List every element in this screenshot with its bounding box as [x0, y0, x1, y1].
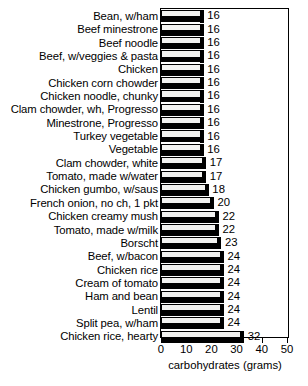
- bar-end-cap: [220, 317, 224, 329]
- x-axis-title: carbohydrates (grams): [160, 359, 290, 371]
- bar-end-cap: [205, 184, 209, 196]
- bar: [161, 117, 201, 130]
- bar-end-cap: [215, 224, 219, 236]
- category-label: Turkey vegetable: [73, 130, 158, 143]
- bar-end-cap: [200, 117, 204, 129]
- bar-value-label: 22: [222, 223, 235, 236]
- bar-row: Cream of tomato24: [0, 277, 308, 290]
- bar: [161, 304, 221, 317]
- x-tick-label: 40: [250, 343, 274, 355]
- bar-row: Clam chowder, white17: [0, 157, 308, 170]
- bar: [161, 331, 242, 344]
- x-tick-label: 30: [225, 343, 249, 355]
- bar: [161, 264, 221, 277]
- bar: [161, 130, 201, 143]
- category-label: Minestrone, Progresso: [46, 117, 158, 130]
- bar-row: Chicken16: [0, 63, 308, 76]
- bar-row: Lentil24: [0, 304, 308, 317]
- bar: [161, 157, 204, 170]
- bar-end-cap: [200, 24, 204, 36]
- bar-value-label: 16: [207, 116, 220, 129]
- bar-shadow-face: [161, 204, 214, 209]
- bar-end-cap: [220, 251, 224, 263]
- bar: [161, 197, 211, 210]
- bar-shadow-face: [161, 337, 244, 342]
- bar-row: Clam chowder, wh, Progresso16: [0, 103, 308, 116]
- bar-value-label: 23: [225, 236, 238, 249]
- bar-end-cap: [200, 10, 204, 22]
- category-label: Chicken creamy mush: [48, 210, 158, 223]
- bar-end-cap: [200, 144, 204, 156]
- bar-end-cap: [215, 211, 219, 223]
- chart-title: [160, 0, 290, 1]
- bar-rows: Bean, w/ham16Beef minestrone16Beef noodl…: [0, 10, 308, 344]
- category-label: Cream of tomato: [75, 277, 158, 290]
- bar: [161, 90, 201, 103]
- bar-row: Beef noodle16: [0, 37, 308, 50]
- bar-value-label: 22: [222, 210, 235, 223]
- bar: [161, 317, 221, 330]
- bar-row: Beef, w/bacon24: [0, 250, 308, 263]
- bar-row: Beef, w/veggies & pasta16: [0, 50, 308, 63]
- bar-end-cap: [202, 171, 206, 183]
- bar-row: Tomato, made w/milk22: [0, 224, 308, 237]
- bar-shadow-face: [161, 230, 219, 235]
- category-label: Chicken: [118, 63, 158, 76]
- bar-shadow-face: [161, 17, 204, 22]
- bar-row: Chicken noodle, chunky16: [0, 90, 308, 103]
- bar: [161, 37, 201, 50]
- bar: [161, 184, 206, 197]
- bar-value-label: 16: [207, 103, 220, 116]
- bar-end-cap: [200, 50, 204, 62]
- bar-shadow-face: [161, 217, 219, 222]
- bar-shadow-face: [161, 30, 204, 35]
- bar-shadow-face: [161, 271, 224, 276]
- bar-shadow-face: [161, 70, 204, 75]
- bar-value-label: 24: [227, 290, 240, 303]
- category-label: Ham and bean: [85, 290, 158, 303]
- bar-row: Beef minestrone16: [0, 23, 308, 36]
- bar-shadow-face: [161, 297, 224, 302]
- bar-value-label: 18: [212, 183, 225, 196]
- category-label: Vegetable: [109, 143, 158, 156]
- category-label: Chicken rice, hearty: [60, 330, 158, 343]
- bar-value-label: 17: [210, 170, 223, 183]
- x-tick-label: 10: [174, 343, 198, 355]
- bar-value-label: 16: [207, 49, 220, 62]
- bar-shadow-face: [161, 44, 204, 49]
- bar-value-label: 16: [207, 36, 220, 49]
- bar-row: Bean, w/ham16: [0, 10, 308, 23]
- category-label: Borscht: [120, 237, 158, 250]
- bar: [161, 144, 201, 157]
- bar-value-label: 16: [207, 23, 220, 36]
- bar-value-label: 16: [207, 89, 220, 102]
- bar-end-cap: [202, 157, 206, 169]
- bar-row: Chicken rice24: [0, 264, 308, 277]
- bar-row: Borscht23: [0, 237, 308, 250]
- x-tick-label: 0: [149, 343, 173, 355]
- category-label: Clam chowder, wh, Progresso: [11, 103, 158, 116]
- bar-value-label: 24: [227, 316, 240, 329]
- category-label: Beef, w/veggies & pasta: [39, 50, 158, 63]
- bar-value-label: 16: [207, 143, 220, 156]
- bar-value-label: 24: [227, 263, 240, 276]
- bar-value-label: 16: [207, 76, 220, 89]
- category-label: Chicken rice: [97, 264, 158, 277]
- category-label: Split pea, w/ham: [76, 317, 158, 330]
- bar-end-cap: [200, 90, 204, 102]
- bar-value-label: 24: [227, 250, 240, 263]
- bar-row: Chicken corn chowder16: [0, 77, 308, 90]
- bar-value-label: 32: [248, 330, 261, 343]
- bar-shadow-face: [161, 284, 224, 289]
- category-label: Tomato, made w/milk: [54, 224, 158, 237]
- bar-end-cap: [200, 77, 204, 89]
- bar: [161, 224, 216, 237]
- bar-row: Chicken creamy mush22: [0, 210, 308, 223]
- bar-value-label: 24: [227, 276, 240, 289]
- bar-value-label: 20: [217, 196, 230, 209]
- x-tick-label: 50: [275, 343, 299, 355]
- bar: [161, 211, 216, 224]
- bar: [161, 50, 201, 63]
- bar-row: Chicken gumbo, w/saus18: [0, 183, 308, 196]
- bar: [161, 237, 219, 250]
